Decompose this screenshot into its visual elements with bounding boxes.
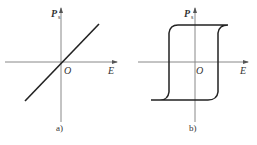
- origin-label: O: [64, 65, 71, 76]
- figure: P s O E a) P s O E b): [0, 0, 257, 145]
- panel-b: P s O E b): [138, 8, 248, 133]
- origin-label: O: [196, 65, 203, 76]
- x-axis-label: E: [239, 65, 246, 76]
- y-axis-label: P: [51, 8, 58, 19]
- y-axis-subscript: s: [191, 14, 194, 20]
- x-axis-label: E: [107, 65, 114, 76]
- caption: a): [56, 123, 63, 133]
- panel-a: P s O E a): [5, 8, 117, 133]
- caption: b): [189, 123, 197, 133]
- y-axis-label: P: [184, 8, 191, 19]
